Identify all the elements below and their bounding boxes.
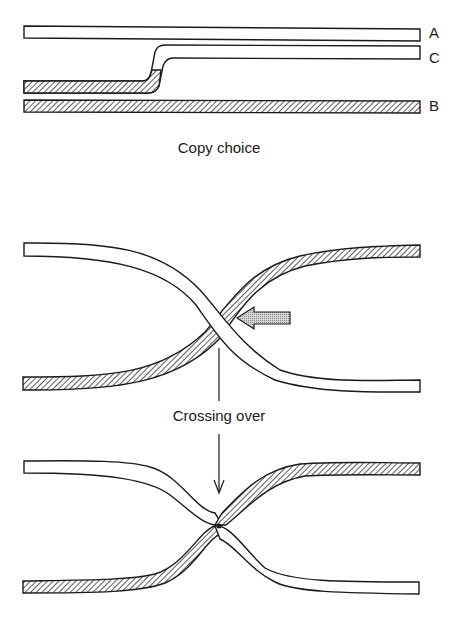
bottom-hatched-strand (23, 526, 222, 593)
copy-choice-panel (24, 26, 420, 113)
diagram-canvas (0, 0, 456, 631)
strand-label-b: B (429, 97, 439, 114)
strand-c-hatched-segment (24, 70, 161, 93)
top-white-strand (24, 461, 222, 526)
strand-label-c: C (429, 49, 440, 66)
strand-b (24, 100, 420, 113)
recombinant-panel (23, 461, 420, 594)
caption-crossing-over: Crossing over (173, 407, 266, 424)
top-hatched-strand (215, 462, 420, 525)
strand-a (24, 26, 420, 41)
crossover-point-arrow-icon (237, 307, 290, 329)
strand-label-a: A (429, 24, 439, 41)
caption-copy-choice: Copy choice (178, 139, 261, 156)
white-strand-crossing (24, 243, 420, 392)
crossing-over-panel (23, 243, 420, 493)
bottom-white-strand (215, 526, 419, 594)
junction-point (217, 524, 222, 529)
